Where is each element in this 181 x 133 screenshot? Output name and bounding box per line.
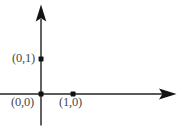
- axes-diagram: [0, 0, 181, 133]
- coordinate-axes-figure: (0,1) (0,0) (1,0): [0, 0, 181, 133]
- y-axis-arrowhead-icon: [36, 5, 47, 22]
- point-label-0-1: (0,1): [12, 52, 35, 65]
- point-marker-0-0: [39, 92, 44, 97]
- point-label-1-0: (1,0): [59, 96, 82, 109]
- point-marker-0-1: [39, 57, 44, 62]
- point-label-0-0: (0,0): [11, 96, 34, 109]
